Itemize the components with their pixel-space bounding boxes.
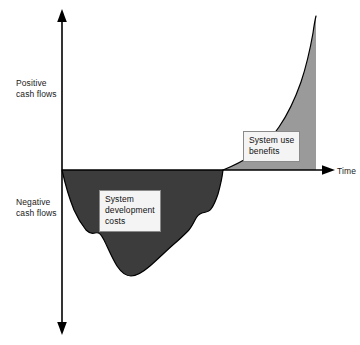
time-axis-label: Time xyxy=(337,166,356,177)
callout-system-development-costs: System development costs xyxy=(99,190,161,232)
callout-system-use-benefits: System use benefits xyxy=(243,131,300,162)
cash-flow-chart xyxy=(0,0,360,345)
vertical-axis-up-arrow-icon xyxy=(57,9,67,22)
time-axis-right-arrow-icon xyxy=(322,165,335,175)
vertical-axis-down-arrow-icon xyxy=(57,322,67,335)
figure-canvas: Positive cash flows Negative cash flows … xyxy=(0,0,360,345)
positive-cash-flows-label: Positive cash flows xyxy=(16,78,57,100)
negative-cash-flows-label: Negative cash flows xyxy=(16,197,57,219)
